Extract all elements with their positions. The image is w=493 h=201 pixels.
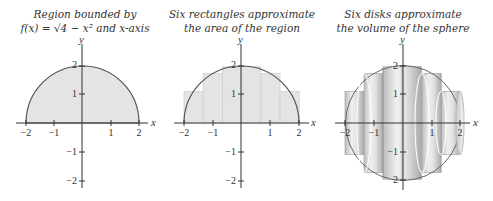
- y-axis-label: y: [237, 33, 243, 45]
- y-tick-neg2: 2: [393, 174, 398, 185]
- x-tick-1: 1: [268, 127, 273, 138]
- y-axis-label: y: [78, 33, 84, 45]
- y-tick-1: 1: [393, 88, 398, 99]
- x-axis-label: x: [150, 116, 156, 128]
- x-tick-neg2: −2: [21, 127, 32, 138]
- panel-region: −2 −1 1 2 2 1 −1 −2 x y: [16, 33, 156, 188]
- y-tick-neg2: −2: [225, 175, 236, 186]
- x-tick-2: 2: [137, 127, 142, 138]
- y-tick-2: 2: [72, 59, 77, 70]
- y-tick-neg1: −1: [225, 146, 236, 157]
- x-tick-neg2: −2: [340, 127, 351, 138]
- rectangles: [184, 67, 299, 123]
- y-tick-1: 1: [72, 88, 77, 99]
- x-axis-label: x: [310, 116, 316, 128]
- panel-rectangles: −2 −1 1 2 2 1 −1 −2 x y: [174, 33, 316, 188]
- y-tick-neg2: −2: [66, 175, 77, 186]
- y-tick-neg1: −1: [66, 146, 77, 157]
- y-tick-2: 2: [231, 59, 236, 70]
- y-axis-label: y: [399, 33, 405, 45]
- y-tick-neg1: −1: [387, 146, 398, 157]
- y-tick-1: 1: [231, 88, 236, 99]
- x-axis-label: x: [472, 116, 478, 128]
- x-tick-1: 1: [109, 127, 114, 138]
- figure: −2 −1 1 2 2 1 −1 −2 x y −2 −1 1 2: [0, 0, 493, 201]
- y-tick-2: 2: [393, 60, 398, 71]
- x-tick-2: 2: [297, 127, 302, 138]
- x-tick-1: 1: [430, 127, 435, 138]
- x-tick-neg1: −1: [208, 127, 219, 138]
- x-tick-neg1: −1: [369, 127, 380, 138]
- x-tick-neg1: −1: [49, 127, 60, 138]
- panel-disks: −2 −1 1 2 2 1 −1 2 x y: [335, 33, 478, 190]
- x-tick-neg2: −2: [179, 127, 190, 138]
- x-tick-2: 2: [458, 127, 463, 138]
